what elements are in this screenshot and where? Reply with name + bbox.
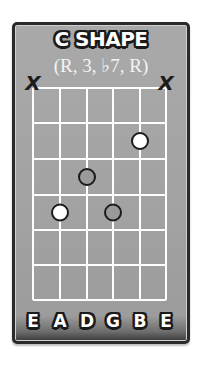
string-label: B bbox=[129, 311, 151, 331]
string-label: E bbox=[155, 311, 177, 331]
finger-dots bbox=[52, 133, 148, 221]
root-dot-icon bbox=[52, 205, 68, 221]
grid-lines bbox=[33, 88, 166, 300]
string-name-labels: EADGBE bbox=[0, 311, 202, 335]
root-dot-icon bbox=[132, 133, 148, 149]
interval-dot-icon bbox=[105, 205, 121, 221]
muted-x-icon: X bbox=[24, 73, 42, 93]
muted-x-icon: X bbox=[157, 73, 175, 93]
string-label: D bbox=[76, 311, 98, 331]
string-label: E bbox=[22, 311, 44, 331]
interval-dot-icon bbox=[79, 169, 95, 185]
string-label: G bbox=[102, 311, 124, 331]
string-label: A bbox=[49, 311, 71, 331]
